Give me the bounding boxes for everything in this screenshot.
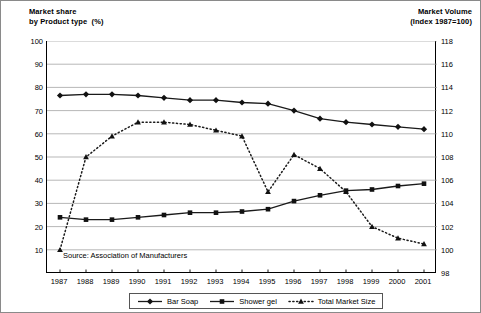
right-tick-label: 106	[441, 176, 467, 185]
data-point-marker	[135, 92, 141, 98]
data-point-marker	[421, 126, 427, 132]
data-point-marker	[291, 108, 297, 114]
x-axis-ticks: 1987198819891990199119921993199419951996…	[46, 277, 436, 291]
data-point-marker	[220, 299, 225, 304]
right-tick-label: 98	[441, 269, 467, 278]
data-point-marker	[147, 298, 153, 304]
right-tick-label: 118	[441, 37, 467, 46]
data-point-marker	[239, 99, 245, 105]
data-point-marker	[58, 215, 63, 220]
data-point-marker	[162, 213, 167, 218]
legend-label: Shower gel	[239, 297, 277, 306]
chart-frame: Market share by Product type (%) Market …	[0, 0, 481, 313]
plot-svg	[47, 41, 437, 273]
plot-area	[46, 41, 436, 273]
data-point-marker	[109, 91, 115, 97]
data-point-marker	[83, 91, 89, 97]
right-tick-label: 100	[441, 245, 467, 254]
data-point-marker	[318, 193, 323, 198]
left-tick-label: 20	[17, 222, 43, 231]
data-point-marker	[317, 116, 323, 122]
data-point-marker	[213, 97, 219, 103]
left-tick-label: 70	[17, 106, 43, 115]
data-point-marker	[343, 119, 349, 125]
data-point-marker	[214, 210, 219, 215]
left-axis-ticks: 100908070605040302010	[15, 41, 43, 273]
right-tick-label: 104	[441, 199, 467, 208]
right-axis-title: Market Volume (Index 1987=100)	[410, 7, 472, 27]
left-tick-label: 10	[17, 245, 43, 254]
data-point-marker	[396, 184, 401, 189]
data-point-marker	[265, 189, 271, 194]
right-tick-label: 114	[441, 83, 467, 92]
data-point-marker	[240, 209, 245, 214]
series-line-shower-gel	[60, 184, 424, 220]
left-tick-label: 90	[17, 60, 43, 69]
data-point-marker	[57, 92, 63, 98]
left-tick-label: 40	[17, 176, 43, 185]
legend-label: Total Market Size	[318, 297, 376, 306]
right-tick-label: 102	[441, 222, 467, 231]
data-point-marker	[84, 217, 89, 222]
left-tick-label: 80	[17, 83, 43, 92]
legend-item-shower-gel[interactable]: Shower gel	[209, 297, 277, 306]
data-point-marker	[136, 215, 141, 220]
right-tick-label: 116	[441, 60, 467, 69]
right-tick-label: 112	[441, 106, 467, 115]
legend-label: Bar Soap	[167, 297, 198, 306]
data-point-marker	[187, 97, 193, 103]
left-tick-label: 30	[17, 199, 43, 208]
x-tick-label: 2001	[406, 277, 440, 286]
data-point-marker	[161, 95, 167, 101]
left-tick-label: 50	[17, 153, 43, 162]
legend-marker-square-icon	[209, 297, 235, 306]
right-tick-label: 108	[441, 153, 467, 162]
data-point-marker	[110, 217, 115, 222]
data-point-marker	[422, 181, 427, 186]
left-tick-label: 100	[17, 37, 43, 46]
left-axis-title: Market share by Product type (%)	[29, 7, 104, 27]
data-point-marker	[369, 121, 375, 127]
legend-marker-diamond-icon	[137, 297, 163, 306]
series-line-total-market-size	[60, 122, 424, 250]
data-point-marker	[266, 207, 271, 212]
data-point-marker	[291, 152, 297, 157]
data-point-marker	[370, 187, 375, 192]
right-axis-ticks: 11811611411211010810610410210098	[441, 41, 471, 273]
legend-item-bar-soap[interactable]: Bar Soap	[137, 297, 198, 306]
legend-item-total-market-size[interactable]: Total Market Size	[288, 297, 376, 306]
legend-marker-triangle-icon	[288, 297, 314, 306]
left-tick-label: 60	[17, 129, 43, 138]
data-point-marker	[298, 298, 304, 303]
source-note: Source: Association of Manufacturers	[63, 251, 187, 260]
right-tick-label: 110	[441, 129, 467, 138]
data-point-marker	[292, 199, 297, 204]
data-point-marker	[188, 210, 193, 215]
chart-legend: Bar SoapShower gelTotal Market Size	[129, 293, 383, 309]
data-point-marker	[395, 124, 401, 130]
data-point-marker	[265, 101, 271, 107]
